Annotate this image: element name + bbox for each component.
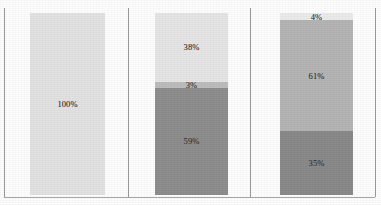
bar-segment-label: 35%	[309, 159, 325, 168]
stacked-bar-1: 100%	[30, 13, 105, 195]
bar-segment-label: 61%	[309, 72, 325, 81]
panel-3: 4% 61% 35%	[250, 0, 375, 205]
stacked-bar-figure: 100% 38% 3% 59% 4% 61% 35%	[0, 0, 381, 205]
bar-segment: 59%	[155, 88, 228, 195]
stacked-bar-3: 4% 61% 35%	[280, 13, 353, 195]
stacked-bar-2: 38% 3% 59%	[155, 13, 228, 195]
bar-segment: 35%	[280, 131, 353, 195]
bar-segment: 4%	[280, 13, 353, 20]
bar-segment-label: 100%	[57, 100, 77, 109]
bar-segment-label: 59%	[184, 137, 200, 146]
bar-segment-label: 38%	[184, 43, 200, 52]
bar-segment: 100%	[30, 13, 105, 195]
bar-segment: 61%	[280, 20, 353, 131]
panel-1: 100%	[0, 0, 128, 205]
bar-segment: 38%	[155, 13, 228, 82]
panel-2: 38% 3% 59%	[128, 0, 250, 205]
frame-rule-right	[375, 8, 376, 197]
